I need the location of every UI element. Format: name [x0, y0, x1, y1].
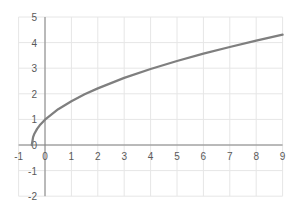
x-tick-label: 6 [201, 151, 207, 162]
series-lines [32, 35, 283, 145]
y-tick-label: 2 [31, 89, 37, 100]
line-chart: -10123456789-2-1012345 [0, 0, 297, 209]
x-tick-label: 9 [280, 151, 286, 162]
y-tick-label: 1 [31, 114, 37, 125]
x-tick-label: 8 [253, 151, 259, 162]
tick-labels: -10123456789-2-1012345 [14, 12, 286, 202]
x-tick-label: 2 [95, 151, 101, 162]
x-tick-label: -1 [14, 151, 23, 162]
x-tick-label: 7 [227, 151, 233, 162]
y-tick-label: -2 [28, 191, 37, 202]
x-tick-label: 4 [148, 151, 154, 162]
x-tick-label: 0 [42, 151, 48, 162]
y-tick-label: 4 [31, 38, 37, 49]
y-tick-label: -1 [28, 166, 37, 177]
y-tick-label: 3 [31, 63, 37, 74]
x-tick-label: 5 [174, 151, 180, 162]
series-line [32, 35, 283, 145]
x-tick-label: 1 [69, 151, 75, 162]
x-tick-label: 3 [121, 151, 127, 162]
y-tick-label: 5 [31, 12, 37, 23]
